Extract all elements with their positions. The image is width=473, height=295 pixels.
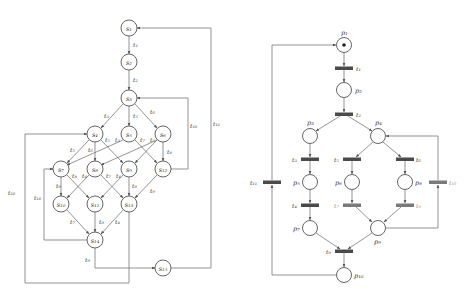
svg-text:t₂: t₂ bbox=[133, 76, 138, 83]
state-node-s10: s₁₀ bbox=[53, 196, 69, 212]
place-p10: p₁₀ bbox=[337, 268, 364, 283]
svg-text:s₁₃: s₁₃ bbox=[125, 201, 134, 209]
state-node-s5: s₅ bbox=[121, 126, 137, 142]
svg-text:t₃: t₃ bbox=[115, 136, 120, 143]
svg-text:p₂: p₂ bbox=[355, 87, 362, 95]
transition-t5 bbox=[343, 158, 361, 162]
svg-text:t₆: t₆ bbox=[88, 146, 93, 153]
petri-net: t₁ t₂ t₃ t₅ t₆ t₄ t₇ t₈ t₉ t₁₁ t₁₀ p₁ p₂… bbox=[250, 29, 457, 283]
place-p8: p₈ bbox=[398, 175, 423, 190]
svg-text:t₄: t₄ bbox=[292, 202, 297, 209]
place-p4: p₄ bbox=[371, 119, 386, 144]
svg-text:s₁₂: s₁₂ bbox=[159, 166, 168, 174]
svg-text:t₈: t₈ bbox=[416, 202, 421, 209]
svg-text:t₄: t₄ bbox=[82, 172, 87, 179]
svg-text:p₅: p₅ bbox=[293, 179, 300, 187]
svg-text:s₇: s₇ bbox=[58, 166, 64, 174]
svg-text:t₅: t₅ bbox=[133, 112, 138, 119]
svg-text:t₂: t₂ bbox=[356, 111, 361, 118]
transition-t2 bbox=[335, 113, 353, 117]
svg-text:t₉: t₉ bbox=[56, 182, 61, 189]
state-node-s9: s₉ bbox=[121, 161, 137, 177]
svg-text:t₅: t₅ bbox=[150, 136, 155, 143]
svg-text:t₉: t₉ bbox=[85, 256, 90, 263]
svg-text:t₉: t₉ bbox=[326, 248, 331, 255]
svg-text:t₁₁: t₁₁ bbox=[213, 120, 220, 127]
svg-text:t₅: t₅ bbox=[105, 136, 110, 143]
state-node-s14: s₁₄ bbox=[87, 232, 103, 248]
svg-text:s₁₁: s₁₁ bbox=[91, 201, 100, 209]
place-p7: p₇ bbox=[293, 221, 318, 236]
svg-text:t₅: t₅ bbox=[70, 146, 75, 153]
svg-text:p₉: p₉ bbox=[374, 238, 381, 246]
svg-text:p₈: p₈ bbox=[415, 179, 422, 187]
state-node-s6: s₆ bbox=[155, 126, 171, 142]
svg-text:t₇: t₇ bbox=[334, 202, 339, 209]
svg-text:s₁: s₁ bbox=[126, 25, 132, 33]
svg-text:t₁: t₁ bbox=[133, 41, 138, 48]
svg-text:t₁: t₁ bbox=[356, 65, 361, 72]
svg-text:p₄: p₄ bbox=[375, 119, 382, 127]
transition-t9 bbox=[335, 250, 353, 254]
svg-text:p₆: p₆ bbox=[335, 179, 342, 187]
state-node-s1: s₁ bbox=[121, 20, 137, 36]
svg-text:s₁₄: s₁₄ bbox=[91, 237, 100, 245]
svg-text:s₁₀: s₁₀ bbox=[57, 201, 66, 209]
svg-text:t₆: t₆ bbox=[150, 108, 155, 115]
svg-text:t₁₀: t₁₀ bbox=[8, 189, 16, 196]
svg-text:t₉: t₉ bbox=[150, 187, 155, 194]
state-node-s12: s₁₂ bbox=[155, 161, 171, 177]
svg-text:p₁: p₁ bbox=[341, 29, 348, 37]
place-p3: p₃ bbox=[303, 119, 318, 144]
svg-text:s₅: s₅ bbox=[126, 131, 132, 139]
svg-text:s₁₅: s₁₅ bbox=[159, 265, 168, 273]
state-node-s15: s₁₅ bbox=[155, 260, 171, 276]
svg-text:t₈: t₈ bbox=[132, 182, 137, 189]
transition-t8 bbox=[396, 204, 414, 208]
place-p1: p₁ bbox=[337, 29, 352, 53]
place-p2: p₂ bbox=[337, 83, 363, 98]
svg-text:t₇: t₇ bbox=[106, 172, 111, 179]
svg-text:p₃: p₃ bbox=[307, 119, 314, 127]
svg-text:s₉: s₉ bbox=[126, 166, 132, 174]
place-p6: p₆ bbox=[335, 175, 360, 190]
place-p9: p₉ bbox=[371, 221, 386, 247]
svg-text:s₃: s₃ bbox=[126, 95, 132, 103]
svg-text:p₁₀: p₁₀ bbox=[354, 272, 364, 280]
state-node-s8: s₈ bbox=[87, 161, 103, 177]
svg-text:t₈: t₈ bbox=[72, 172, 77, 179]
svg-text:t₇: t₇ bbox=[70, 218, 75, 225]
state-node-s2: s₂ bbox=[121, 54, 137, 70]
transition-t10 bbox=[429, 181, 447, 185]
graph-edges bbox=[25, 28, 211, 283]
svg-text:t₅: t₅ bbox=[334, 156, 339, 163]
svg-text:t₃: t₃ bbox=[292, 156, 297, 163]
transition-t4 bbox=[301, 204, 319, 208]
svg-text:p₇: p₇ bbox=[293, 225, 300, 233]
transition-t7 bbox=[343, 204, 361, 208]
place-p5: p₅ bbox=[293, 175, 318, 190]
state-node-s4: s₄ bbox=[87, 126, 103, 142]
state-node-s7: s₇ bbox=[53, 161, 69, 177]
state-node-s11: s₁₁ bbox=[87, 196, 103, 212]
svg-text:t₄: t₄ bbox=[115, 218, 120, 225]
svg-text:t₈: t₈ bbox=[167, 148, 172, 155]
transition-t3 bbox=[301, 158, 319, 162]
svg-text:t₁₀: t₁₀ bbox=[190, 122, 198, 129]
svg-text:t₈: t₈ bbox=[99, 218, 104, 225]
token bbox=[342, 43, 346, 47]
svg-text:s₄: s₄ bbox=[92, 131, 98, 139]
svg-text:t₁₀: t₁₀ bbox=[449, 179, 457, 186]
svg-text:s₆: s₆ bbox=[160, 131, 166, 139]
svg-text:s₈: s₈ bbox=[92, 166, 98, 174]
svg-text:t₁₀: t₁₀ bbox=[34, 194, 42, 201]
svg-text:t₇: t₇ bbox=[140, 136, 145, 143]
transition-t1 bbox=[335, 67, 353, 71]
svg-text:t₁₁: t₁₁ bbox=[250, 179, 257, 186]
svg-text:t₄: t₄ bbox=[116, 172, 121, 179]
svg-text:t₆: t₆ bbox=[416, 156, 421, 163]
reachability-graph: t₁ t₂ t₃ t₅ t₆ t₁₀ t₁₁ t₅ t₆ t₅ t₃ t₇ t₅… bbox=[8, 20, 220, 283]
transition-t6 bbox=[396, 158, 414, 162]
svg-text:s₂: s₂ bbox=[126, 59, 132, 67]
svg-text:t₃: t₃ bbox=[104, 112, 109, 119]
